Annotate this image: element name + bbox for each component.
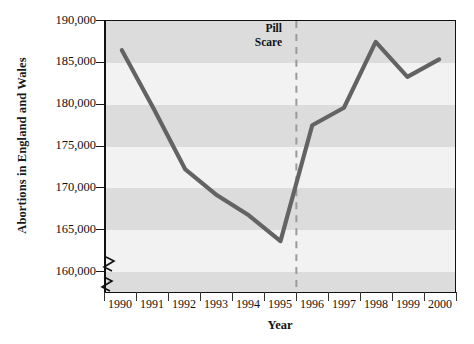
x-axis-tick-label: 1993 (200, 296, 232, 312)
y-axis-tick-mark (96, 146, 104, 147)
x-axis-tick-label: 1992 (168, 296, 200, 312)
y-axis-tick-labels: 160,000165,000170,000175,000180,000185,0… (22, 0, 96, 344)
x-axis-tick-label: 1991 (136, 296, 168, 312)
pill-scare-line1: Pill (204, 22, 282, 36)
y-axis-tick-label: 165,000 (24, 223, 96, 236)
x-axis-tick-labels: 1990199119921993199419951996199719981999… (104, 296, 456, 314)
y-axis-tick-mark (96, 229, 104, 230)
y-axis-tick-label: 170,000 (24, 181, 96, 194)
x-axis-title: Year (104, 318, 456, 333)
plot-area (104, 20, 456, 292)
y-axis-tick-mark (96, 104, 104, 105)
pill-scare-annotation-label: Pill Scare (204, 22, 282, 49)
x-axis-tick-label: 2000 (424, 296, 456, 312)
y-axis-tick-mark (96, 187, 104, 188)
plot-svg (106, 21, 455, 292)
y-axis-tick-label: 180,000 (24, 97, 96, 110)
x-axis-tick-label: 1999 (392, 296, 424, 312)
data-series-line (122, 42, 439, 241)
y-axis-tick-label: 160,000 (24, 265, 96, 278)
x-axis-tick-label: 1990 (104, 296, 136, 312)
y-axis-tick-mark (96, 20, 104, 21)
x-axis-tick-label: 1998 (360, 296, 392, 312)
x-axis-tick-mark (456, 292, 457, 301)
x-axis-tick-label: 1996 (296, 296, 328, 312)
chart-figure: Abortions in England and Wales 160,00016… (0, 0, 474, 344)
y-axis-tick-label: 175,000 (24, 139, 96, 152)
y-axis-tick-label: 190,000 (24, 14, 96, 27)
y-axis-break-symbol (92, 255, 118, 295)
x-axis-tick-label: 1997 (328, 296, 360, 312)
y-axis-tick-mark (96, 62, 104, 63)
y-axis-tick-label: 185,000 (24, 55, 96, 68)
pill-scare-line2: Scare (204, 36, 282, 50)
y-axis-tick-mark (96, 271, 104, 272)
x-axis-tick-label: 1995 (264, 296, 296, 312)
x-axis-tick-label: 1994 (232, 296, 264, 312)
